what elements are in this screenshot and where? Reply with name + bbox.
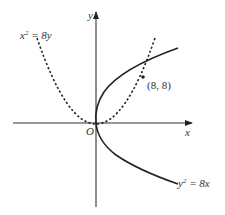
y-axis-label: y [88, 10, 93, 21]
intersection-label: (8, 8) [147, 80, 171, 91]
label-y2-8x: y2 = 8x [178, 178, 210, 189]
solid-parabola-y2-8x [96, 48, 178, 184]
label-x2-8y: x2 = 8y [20, 30, 52, 41]
origin-label: O [86, 126, 94, 137]
x-axis-label: x [185, 127, 190, 138]
intersection-point [141, 75, 145, 79]
